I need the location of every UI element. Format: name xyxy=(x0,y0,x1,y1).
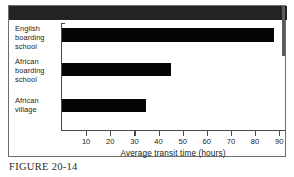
figure-top-band xyxy=(9,6,287,20)
x-axis-tick xyxy=(134,131,135,136)
x-axis-tick xyxy=(86,131,87,136)
figure-page: English boarding school African boarding… xyxy=(0,0,294,177)
x-axis-tick-label: 30 xyxy=(123,137,145,146)
category-label-line: school xyxy=(15,42,63,51)
x-axis-line xyxy=(61,130,285,131)
x-axis-tick-label: 50 xyxy=(172,137,194,146)
bar-chart-plot-area: English boarding school African boarding… xyxy=(9,20,287,157)
category-label-line: English xyxy=(15,24,63,33)
x-axis-title: Average transit time (hours) xyxy=(61,149,285,158)
x-axis-tick-label: 90 xyxy=(268,137,290,146)
x-axis-tick xyxy=(183,131,184,136)
x-axis-tick-label: 40 xyxy=(148,137,170,146)
bar-english-boarding-school xyxy=(62,28,274,42)
x-axis-tick-label: 70 xyxy=(220,137,242,146)
x-axis-tick-label: 80 xyxy=(244,137,266,146)
x-axis-tick xyxy=(159,131,160,136)
figure-caption: FIGURE 20-14 xyxy=(9,161,78,172)
x-axis-tick-label: 60 xyxy=(196,137,218,146)
y-axis-top-cap xyxy=(61,23,65,24)
category-label-line: boarding xyxy=(15,33,63,42)
x-axis-tick xyxy=(231,131,232,136)
x-axis-tick xyxy=(110,131,111,136)
category-label-line: African xyxy=(15,57,63,66)
x-axis-tick-label: 20 xyxy=(99,137,121,146)
x-axis-tick xyxy=(207,131,208,136)
category-label-line: school xyxy=(15,75,63,84)
x-axis-tick xyxy=(255,131,256,136)
category-label-line: boarding xyxy=(15,66,63,75)
category-label-african-boarding-school: African boarding school xyxy=(15,57,63,85)
x-axis-tick-label: 10 xyxy=(75,137,97,146)
bar-african-boarding-school xyxy=(62,63,171,76)
category-label-line: African xyxy=(15,96,63,105)
x-axis-tick xyxy=(279,131,280,136)
category-label-line: village xyxy=(15,105,63,114)
bar-african-village xyxy=(62,99,146,112)
figure-frame: English boarding school African boarding… xyxy=(8,5,286,157)
category-label-african-village: African village xyxy=(15,96,63,114)
category-label-english-boarding-school: English boarding school xyxy=(15,24,63,52)
